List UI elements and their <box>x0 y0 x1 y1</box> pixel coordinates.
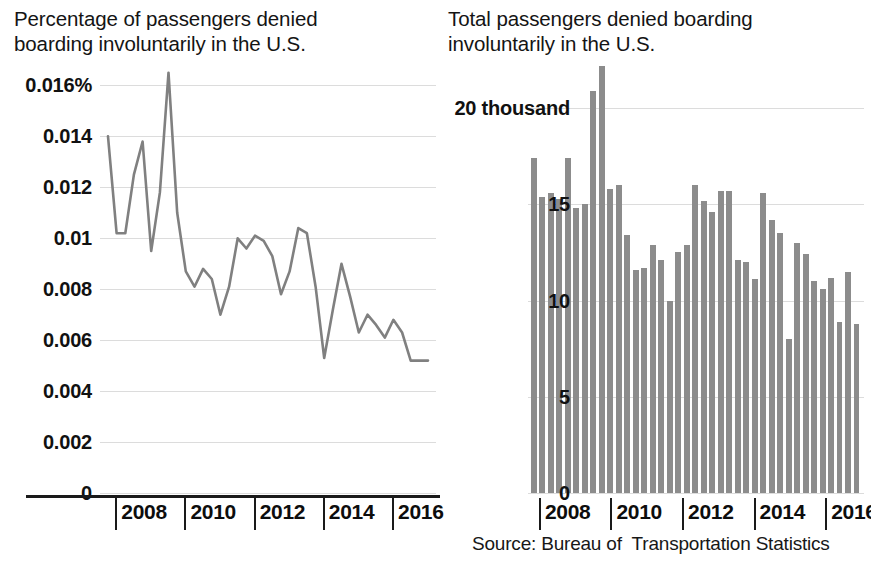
x-axis-tick <box>610 498 612 530</box>
bar <box>786 339 792 493</box>
bar <box>709 212 715 493</box>
x-axis-tick <box>115 498 117 530</box>
source-note: Source: Bureau of Transportation Statist… <box>472 533 830 555</box>
bar <box>845 272 851 493</box>
x-axis-tick-label: 2010 <box>190 500 236 524</box>
bar-series <box>528 60 864 493</box>
left-chart-panel: Percentage of passengers denied boarding… <box>0 0 440 564</box>
bar <box>624 235 630 493</box>
bar <box>726 191 732 493</box>
bar <box>607 189 613 493</box>
bar <box>760 193 766 493</box>
y-axis-tick-label: 0.008 <box>43 278 92 301</box>
left-x-axis-line <box>26 495 440 498</box>
x-axis-tick-label: 2014 <box>329 500 375 524</box>
bar <box>650 245 656 493</box>
bar <box>658 260 664 493</box>
bar <box>735 260 741 493</box>
y-axis-tick-label: 0.004 <box>43 380 92 403</box>
right-y-axis-labels: 05101520 thousand <box>440 0 576 564</box>
bar <box>667 301 673 493</box>
bar <box>641 268 647 493</box>
x-axis-tick-label: 2012 <box>688 500 734 524</box>
x-axis-tick-label: 2016 <box>831 500 871 524</box>
bar <box>769 220 775 493</box>
x-axis-tick-label: 2012 <box>260 500 306 524</box>
bar <box>684 245 690 493</box>
x-axis-tick-label: 2014 <box>760 500 806 524</box>
bar <box>633 270 639 493</box>
y-axis-tick-label: 0 <box>81 482 92 505</box>
y-axis-tick-label: 0.014 <box>43 125 92 148</box>
bar <box>701 201 707 494</box>
y-axis-tick-label: 0.002 <box>43 431 92 454</box>
bar <box>743 262 749 493</box>
x-axis-tick <box>392 498 394 530</box>
y-axis-tick-label: 20 thousand <box>454 97 570 120</box>
gridline <box>100 493 436 494</box>
y-axis-tick-label: 5 <box>559 385 570 408</box>
x-axis-tick-label: 2016 <box>398 500 444 524</box>
bar <box>718 191 724 493</box>
x-axis-tick <box>184 498 186 530</box>
bar <box>811 281 817 493</box>
left-plot-area <box>100 60 436 493</box>
y-axis-tick-label: 0 <box>559 482 570 505</box>
x-axis-tick-label: 2008 <box>121 500 167 524</box>
y-axis-tick-label: 10 <box>548 289 570 312</box>
line-series-path <box>108 73 428 361</box>
x-axis-tick <box>825 498 827 530</box>
bar <box>675 252 681 493</box>
bar <box>582 204 588 493</box>
y-axis-tick-label: 0.006 <box>43 329 92 352</box>
bar <box>828 278 834 494</box>
gridline <box>528 493 864 494</box>
y-axis-tick-label: 0.016% <box>25 74 92 97</box>
right-plot-area <box>528 60 864 493</box>
y-axis-tick-label: 0.012 <box>43 176 92 199</box>
bar <box>794 243 800 493</box>
y-axis-tick-label: 15 <box>548 193 570 216</box>
chart-page: Percentage of passengers denied boarding… <box>0 0 871 564</box>
bar <box>777 233 783 493</box>
bar <box>599 66 605 493</box>
bar <box>820 289 826 493</box>
bar <box>692 185 698 493</box>
bar <box>616 185 622 493</box>
x-axis-tick <box>754 498 756 530</box>
line-series-svg <box>100 60 436 493</box>
x-axis-tick <box>682 498 684 530</box>
bar <box>854 324 860 493</box>
bar <box>837 322 843 493</box>
y-axis-tick-label: 0.01 <box>54 227 92 250</box>
bar <box>590 91 596 493</box>
left-y-axis-labels: 00.0020.0040.0060.0080.010.0120.0140.016… <box>0 0 92 564</box>
x-axis-tick-label: 2010 <box>616 500 662 524</box>
x-axis-tick <box>323 498 325 530</box>
bar <box>803 254 809 493</box>
x-axis-tick <box>254 498 256 530</box>
bar <box>752 279 758 493</box>
